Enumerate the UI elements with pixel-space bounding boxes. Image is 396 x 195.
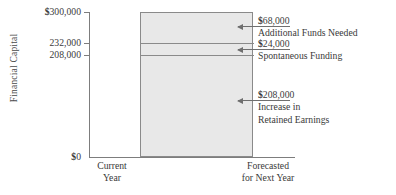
chart-figure: Financial Capital $300,000 232,000 208,0… [0, 0, 396, 195]
x-category-forecasted-next-year: Forecasted for Next Year [222, 160, 314, 185]
y-tick-mark-208000 [84, 55, 90, 56]
annotation-text-increase-retained-earnings-line1: Increase in [258, 101, 329, 113]
annotation-value-0: 68,000 [263, 15, 290, 26]
y-tick-label-300000: $300,000 [0, 6, 81, 18]
x-axis-line [89, 157, 295, 158]
bar-segment-divider-upper [140, 43, 254, 44]
y-tick-value-232000: 232,000 [50, 37, 81, 48]
x-category-forecasted-next-year-line1: Forecasted [222, 160, 314, 172]
bar-segment-divider-lower [140, 55, 254, 56]
y-tick-value-208000: 208,000 [50, 49, 81, 60]
y-tick-mark-232000 [84, 43, 90, 44]
x-category-forecasted-next-year-line2: for Next Year [222, 172, 314, 184]
annotation-amount-additional-funds-needed: $68,000 [258, 15, 358, 27]
y-axis-line [89, 12, 90, 158]
y-tick-label-0: $0 [0, 151, 81, 163]
y-axis-title: Financial Capital [9, 8, 19, 128]
y-tick-label-232000: 232,000 [0, 37, 81, 49]
annotation-text-spontaneous-funding: Spontaneous Funding [258, 50, 342, 62]
x-category-current-year: Current Year [72, 160, 152, 185]
x-category-current-year-line1: Current [72, 160, 152, 172]
annotation-value-1: 24,000 [263, 38, 290, 49]
annotation-amount-spontaneous-funding: $24,000 [258, 38, 342, 50]
annotation-value-2: 208,000 [263, 89, 294, 100]
annotation-additional-funds-needed: $68,000 Additional Funds Needed [258, 15, 358, 40]
annotation-spontaneous-funding: $24,000 Spontaneous Funding [258, 38, 342, 63]
annotation-increase-retained-earnings: $208,000 Increase in Retained Earnings [258, 89, 329, 126]
y-tick-mark-300000 [84, 12, 90, 13]
y-tick-value-300000: 300,000 [50, 6, 81, 17]
x-category-current-year-line2: Year [72, 172, 152, 184]
y-tick-label-208000: 208,000 [0, 49, 81, 61]
bar-forecasted-next-year [140, 12, 253, 157]
annotation-text-increase-retained-earnings-line2: Retained Earnings [258, 114, 329, 126]
annotation-amount-increase-retained-earnings: $208,000 [258, 89, 329, 101]
